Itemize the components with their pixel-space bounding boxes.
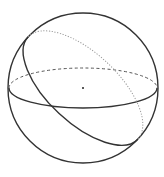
tilted-back-arc [28, 11, 162, 139]
center-point [82, 87, 84, 89]
sphere-diagram [0, 0, 164, 177]
sphere-svg [0, 0, 164, 177]
